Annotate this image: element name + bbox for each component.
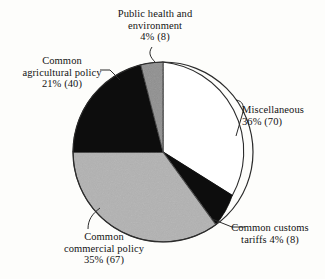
label-line-1: Common <box>6 55 118 67</box>
label-line-2: environment <box>96 20 214 32</box>
leader-line-public-health <box>150 47 156 63</box>
pie-chart-figure: Public health and environment 4% (8) Com… <box>0 0 325 279</box>
slice-label-common-agricultural-policy: Common agricultural policy 21% (40) <box>6 55 118 90</box>
slice-label-common-customs-tariffs: Common customs tariffs 4% (8) <box>215 222 325 245</box>
label-line-1: Common customs <box>215 222 325 234</box>
label-line-2: commercial policy <box>38 243 170 255</box>
slice-label-miscellaneous: Miscellaneous 36% (70) <box>242 104 324 127</box>
label-line-3: 35% (67) <box>38 254 170 266</box>
label-line-1: Common <box>38 231 170 243</box>
slice-label-common-commercial-policy: Common commercial policy 35% (67) <box>38 231 170 266</box>
label-line-1: Miscellaneous <box>242 104 324 116</box>
label-line-1: Public health and <box>96 8 214 20</box>
label-line-2: 36% (70) <box>242 116 324 128</box>
slice-label-public-health-and-environment: Public health and environment 4% (8) <box>96 8 214 43</box>
label-line-2: agricultural policy <box>6 67 118 79</box>
label-line-3: 21% (40) <box>6 78 118 90</box>
label-line-2: tariffs 4% (8) <box>215 234 325 246</box>
label-line-3: 4% (8) <box>96 31 214 43</box>
